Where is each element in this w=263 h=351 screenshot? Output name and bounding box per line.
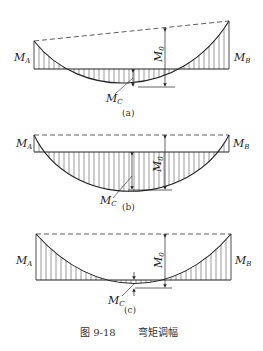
figure-caption-number: 图 9-18 [80,327,116,338]
panel-label-b: (b) [122,202,135,212]
label-mb-a: MB [233,51,250,65]
moment-curve-b [34,135,229,191]
hatch-a [39,29,224,83]
label-ma-b: MA [15,137,32,151]
hatch-b [39,144,224,192]
label-mb-c: MB [234,254,251,268]
hatch-c [41,239,226,283]
moment-redistribution-figure: MA MB M0 MC (a) MA MB M0 MC (b) MA [0,0,263,351]
label-m0-c: M0 [152,252,166,269]
label-ma-c: MA [15,254,32,268]
label-m0-b: M0 [151,156,165,173]
dashed-closing-line-a [34,21,229,41]
label-mc-a: MC [105,92,123,106]
panel-a: MA MB M0 MC (a) [13,21,250,118]
label-ma-a: MA [13,51,30,65]
label-m0-a: M0 [152,46,166,63]
label-mb-b: MB [232,137,249,151]
mc-leader-c [122,284,134,296]
moment-curve-c [36,234,231,284]
panel-b: MA MB M0 MC (b) [15,135,249,212]
moment-curve-a [34,21,229,83]
panel-c: MA MB M0 MC (c) [15,234,251,315]
figure-caption-title: 弯矩调幅 [138,326,178,338]
panel-label-a: (a) [122,108,134,118]
panel-label-c: (c) [124,305,136,315]
label-mc-c: MC [107,294,125,308]
